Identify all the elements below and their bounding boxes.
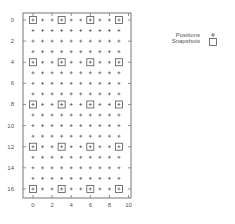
position-point: [89, 92, 92, 95]
position-point: [89, 145, 92, 148]
position-point: [89, 61, 92, 64]
position-point: [108, 145, 111, 148]
position-point: [98, 61, 101, 64]
position-point: [117, 177, 120, 180]
position-point: [98, 71, 101, 74]
position-point: [41, 71, 44, 74]
position-point: [32, 19, 35, 22]
position-point: [60, 71, 63, 74]
x-tick-label: 2: [50, 202, 54, 208]
position-point: [41, 61, 44, 64]
position-point: [51, 156, 54, 159]
position-point: [98, 82, 101, 85]
y-tick-label: 10: [7, 123, 14, 129]
position-point: [70, 145, 73, 148]
position-point: [32, 103, 35, 106]
position-point: [70, 114, 73, 117]
position-point: [79, 135, 82, 138]
position-point: [51, 40, 54, 43]
position-point: [108, 177, 111, 180]
position-point: [117, 92, 120, 95]
position-point: [60, 166, 63, 169]
position-point: [70, 71, 73, 74]
position-point: [98, 187, 101, 190]
position-point: [32, 61, 35, 64]
position-point: [117, 103, 120, 106]
position-point: [60, 145, 63, 148]
position-point: [60, 124, 63, 127]
position-point: [89, 166, 92, 169]
position-point: [51, 71, 54, 74]
position-point: [70, 166, 73, 169]
position-point: [70, 29, 73, 32]
position-point: [79, 61, 82, 64]
position-point: [98, 156, 101, 159]
position-point: [98, 103, 101, 106]
position-point: [51, 187, 54, 190]
position-point: [89, 40, 92, 43]
position-point: [117, 187, 120, 190]
x-tick-label: 0: [31, 202, 35, 208]
y-tick-label: 8: [11, 101, 15, 107]
position-point: [117, 71, 120, 74]
position-point: [70, 177, 73, 180]
y-tick-label: 12: [7, 144, 14, 150]
position-point: [108, 156, 111, 159]
position-point: [108, 40, 111, 43]
position-point: [108, 82, 111, 85]
position-point: [60, 187, 63, 190]
position-point: [51, 19, 54, 22]
position-point: [60, 177, 63, 180]
position-point: [41, 166, 44, 169]
position-point: [108, 135, 111, 138]
position-point: [41, 135, 44, 138]
position-point: [70, 135, 73, 138]
position-point: [108, 166, 111, 169]
position-point: [60, 61, 63, 64]
position-point: [79, 29, 82, 32]
position-point: [51, 29, 54, 32]
position-point: [51, 50, 54, 53]
position-point: [79, 92, 82, 95]
position-point: [60, 103, 63, 106]
legend: Positions Snapshots: [172, 32, 217, 46]
position-point: [32, 156, 35, 159]
position-point: [41, 187, 44, 190]
position-point: [98, 124, 101, 127]
position-point: [108, 103, 111, 106]
x-tick-label: 4: [70, 202, 74, 208]
position-point: [51, 166, 54, 169]
position-point: [32, 114, 35, 117]
y-tick-label: 4: [11, 59, 15, 65]
y-tick-label: 0: [11, 17, 15, 23]
position-point: [98, 177, 101, 180]
position-point: [89, 103, 92, 106]
position-point: [89, 71, 92, 74]
position-point: [108, 71, 111, 74]
position-point: [89, 135, 92, 138]
position-point: [60, 135, 63, 138]
x-tick-label: 8: [108, 202, 112, 208]
position-point: [117, 124, 120, 127]
position-point: [70, 50, 73, 53]
position-point: [51, 92, 54, 95]
position-point: [60, 156, 63, 159]
position-point: [32, 50, 35, 53]
position-point: [41, 145, 44, 148]
position-point: [79, 177, 82, 180]
position-point: [60, 82, 63, 85]
position-point: [117, 40, 120, 43]
plot-frame: [23, 13, 131, 198]
y-axis: 0246810121416: [7, 17, 131, 192]
position-point: [41, 40, 44, 43]
position-point: [41, 124, 44, 127]
position-point: [60, 50, 63, 53]
position-point: [108, 124, 111, 127]
position-point: [108, 61, 111, 64]
position-point: [98, 29, 101, 32]
position-point: [51, 145, 54, 148]
position-point: [98, 114, 101, 117]
position-point: [41, 82, 44, 85]
y-tick-label: 2: [11, 38, 15, 44]
position-point: [79, 124, 82, 127]
